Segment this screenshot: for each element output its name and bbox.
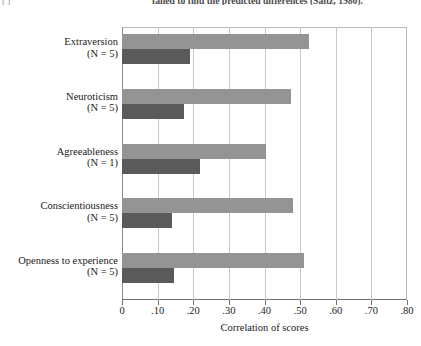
bar-light-series-2 bbox=[122, 144, 266, 159]
x-axis-title: Correlation of scores bbox=[122, 322, 407, 333]
x-axis-tick-label: .50 bbox=[285, 305, 315, 316]
category-label: Extraversion(N = 5) bbox=[2, 36, 118, 59]
category-name: Conscientiousness bbox=[40, 200, 118, 211]
category-name: Extraversion bbox=[64, 36, 118, 47]
category-label: Neuroticism(N = 5) bbox=[2, 91, 118, 114]
bar-light-series-3 bbox=[122, 198, 293, 213]
category-sample-size: (N = 1) bbox=[2, 157, 118, 169]
x-axis-tick-label: .30 bbox=[214, 305, 244, 316]
category-sample-size: (N = 5) bbox=[2, 48, 118, 60]
bar-dark-series-1 bbox=[122, 104, 184, 119]
y-axis-category-labels: Extraversion(N = 5)Neuroticism(N = 5)Agr… bbox=[0, 0, 118, 346]
category-name: Openness to experience bbox=[18, 255, 118, 266]
category-sample-size: (N = 5) bbox=[2, 266, 118, 278]
bar-light-series-4 bbox=[122, 253, 304, 268]
x-axis-tick-label: .10 bbox=[143, 305, 173, 316]
category-label: Openness to experience(N = 5) bbox=[2, 255, 118, 278]
bar-dark-series-2 bbox=[122, 159, 200, 174]
x-axis-tick-label: .80 bbox=[392, 305, 421, 316]
bar-chart: 0.10.20.30.40.50.60.70.80 Extraversion(N… bbox=[0, 0, 421, 346]
category-sample-size: (N = 5) bbox=[2, 212, 118, 224]
category-label: Agreeableness(N = 1) bbox=[2, 146, 118, 169]
gridline bbox=[371, 27, 372, 300]
x-axis-tick-label: .20 bbox=[178, 305, 208, 316]
bar-light-series-1 bbox=[122, 89, 291, 104]
category-name: Neuroticism bbox=[66, 91, 118, 102]
category-name: Agreeableness bbox=[57, 146, 118, 157]
x-axis-tick-label: .60 bbox=[321, 305, 351, 316]
bar-dark-series-4 bbox=[122, 268, 174, 283]
x-axis-tick-label: .40 bbox=[250, 305, 280, 316]
bar-dark-series-3 bbox=[122, 213, 172, 228]
bar-light-series-0 bbox=[122, 34, 309, 49]
bar-dark-series-0 bbox=[122, 49, 190, 64]
figure-page: [ ] failed to find the predicted differe… bbox=[0, 0, 421, 346]
category-label: Conscientiousness(N = 5) bbox=[2, 200, 118, 223]
gridline bbox=[336, 27, 337, 300]
x-axis-tick-label: .70 bbox=[356, 305, 386, 316]
category-sample-size: (N = 5) bbox=[2, 102, 118, 114]
